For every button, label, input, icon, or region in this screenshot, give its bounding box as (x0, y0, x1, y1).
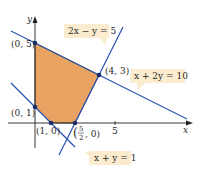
vertex-5half-0 (73, 121, 78, 126)
vertex-label-4-3: (4, 3) (105, 66, 129, 76)
x-axis-label: x (183, 125, 188, 135)
svg-text:x + y = 1: x + y = 1 (94, 153, 136, 163)
callout-2x-minus-y-eq-5: 2x − y = 5 (64, 24, 116, 45)
vertex-label-1-0: (1, 0) (36, 126, 60, 136)
linear-programming-diagram: y x 5 (0, 5) (4, 3) (0, 1) (1, 0) ( 5 2 … (0, 0, 199, 175)
svg-text:2: 2 (79, 134, 83, 142)
vertex-1-0 (49, 121, 54, 126)
svg-text:2x − y = 5: 2x − y = 5 (68, 26, 116, 36)
vertex-label-0-5: (0, 5) (11, 39, 35, 49)
svg-text:5: 5 (79, 125, 83, 133)
vertex-4-3 (97, 73, 102, 78)
callout-x-plus-2y-eq-10: x + 2y = 10 (130, 69, 188, 90)
y-axis-label: y (26, 14, 33, 24)
callout-x-plus-y-eq-1: x + y = 1 (84, 151, 136, 165)
svg-text:, 0): , 0) (85, 129, 100, 139)
svg-text:(: ( (73, 126, 78, 140)
vertex-label-0-1: (0, 1) (11, 108, 35, 118)
svg-text:x + 2y = 10: x + 2y = 10 (134, 71, 188, 81)
vertex-label-5half-0: ( 5 2 , 0) (73, 125, 100, 142)
feasible-region (35, 43, 99, 123)
y-axis-arrow-icon (33, 16, 38, 23)
x-tick-label-5: 5 (112, 126, 118, 136)
